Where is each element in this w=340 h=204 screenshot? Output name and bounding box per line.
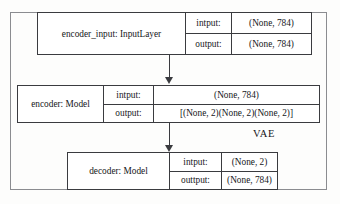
arrow-encoder-input-to-encoder-head-icon — [165, 77, 173, 84]
arrow-encoder-to-decoder-head-icon — [165, 145, 173, 152]
node-encoder-input-input-shape: (None, 784) — [232, 13, 311, 33]
node-encoder-output-label: output: — [104, 105, 154, 123]
node-encoder: encoder: Model intput: (None, 784) outpu… — [17, 85, 320, 123]
node-encoder-input-output-shape: (None, 784) — [232, 34, 311, 54]
node-decoder-output-shape: (None, 784) — [222, 172, 277, 190]
node-decoder-input-shape: (None, 2) — [222, 153, 277, 171]
node-encoder-input-title: encoder_input: InputLayer — [38, 13, 186, 54]
node-encoder-output-shape: [(None, 2)(None, 2)(None, 2)] — [154, 105, 319, 123]
node-decoder-ports: intput: (None, 2) outtput: (None, 784) — [170, 153, 277, 189]
vae-container-label: VAE — [253, 128, 275, 139]
node-encoder-title: encoder: Model — [18, 86, 104, 122]
node-encoder-input-output-label: output: — [186, 34, 232, 54]
node-encoder-output-row: output: [(None, 2)(None, 2)(None, 2)] — [104, 105, 319, 123]
node-decoder: decoder: Model intput: (None, 2) outtput… — [67, 152, 278, 190]
node-encoder-input-shape: (None, 784) — [154, 86, 319, 104]
node-decoder-title: decoder: Model — [68, 153, 170, 189]
node-encoder-input-label: intput: — [104, 86, 154, 104]
node-decoder-output-row: outtput: (None, 784) — [170, 172, 277, 190]
node-encoder-input-input-label: intput: — [186, 13, 232, 33]
node-decoder-output-label: outtput: — [170, 172, 222, 190]
node-encoder-input-input-row: intput: (None, 784) — [186, 13, 311, 34]
node-encoder-ports: intput: (None, 784) output: [(None, 2)(N… — [104, 86, 319, 122]
node-encoder-input-row: intput: (None, 784) — [104, 86, 319, 105]
node-decoder-input-row: intput: (None, 2) — [170, 153, 277, 172]
node-decoder-input-label: intput: — [170, 153, 222, 171]
node-encoder-input-ports: intput: (None, 784) output: (None, 784) — [186, 13, 311, 54]
node-encoder-input-output-row: output: (None, 784) — [186, 34, 311, 54]
arrow-encoder-input-to-encoder-line — [169, 55, 170, 79]
node-encoder-input: encoder_input: InputLayer intput: (None,… — [37, 12, 312, 55]
model-diagram: VAE encoder_input: InputLayer intput: (N… — [0, 0, 340, 204]
arrow-encoder-to-decoder-line — [169, 123, 170, 147]
